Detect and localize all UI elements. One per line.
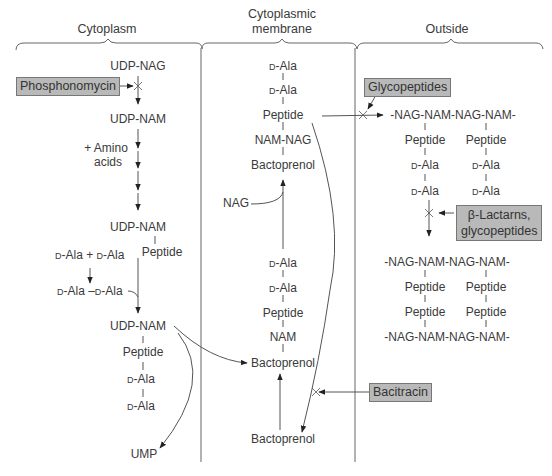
label-udp-nam-2: UDP-NAM — [110, 220, 166, 234]
label-chain-bottom: -NAG-NAM-NAG-NAM- — [384, 330, 509, 344]
label-nag: NAG — [223, 196, 249, 210]
label-udp-nam-3: UDP-NAM — [110, 319, 166, 333]
label-nam: NAM — [270, 330, 297, 344]
label-dala-dala: D-Ala –D-Ala — [57, 284, 123, 299]
label-amino-acids-line2: acids — [94, 155, 122, 169]
label-udp-nam-1: UDP-NAM — [110, 112, 166, 126]
label-dala-b: D-Ala — [127, 399, 155, 414]
label-outside-dala-l1: D-Ala — [411, 158, 439, 173]
label-xl-peptide-l1: Peptide — [405, 280, 446, 294]
region-label-outside: Outside — [425, 22, 468, 37]
label-membrane-dala-2: D-Ala — [269, 83, 297, 98]
label-membrane-peptide-top: Peptide — [263, 108, 304, 122]
label-amino-acids-line1: + Amino — [84, 141, 128, 155]
label-outside-dala-r2: D-Ala — [472, 184, 500, 199]
drug-box-beta-lactams-line1: β-Lactarns, — [461, 207, 537, 223]
label-xl-peptide-r1: Peptide — [466, 280, 507, 294]
label-outside-dala-r1: D-Ala — [472, 158, 500, 173]
label-peptide-1: Peptide — [142, 245, 183, 259]
label-chain-top: -NAG-NAM-NAG-NAM- — [390, 108, 515, 122]
label-outside-peptide-l: Peptide — [405, 133, 446, 147]
label-outside-peptide-r: Peptide — [466, 133, 507, 147]
label-bactoprenol-bottom: Bactoprenol — [251, 432, 315, 446]
label-udp-nag: UDP-NAG — [110, 59, 165, 73]
label-bactoprenol-top: Bactoprenol — [251, 158, 315, 172]
label-xl-peptide-r2: Peptide — [466, 305, 507, 319]
label-peptide-2: Peptide — [123, 345, 164, 359]
label-outside-dala-l2: D-Ala — [411, 184, 439, 199]
drug-box-glycopeptides: Glycopeptides — [364, 78, 451, 97]
drug-box-bacitracin: Bacitracin — [369, 383, 432, 402]
drug-box-phosphonomycin: Phosphonomycin — [16, 77, 120, 96]
label-chain-mid: -NAG-NAM-NAG-NAM- — [384, 255, 509, 269]
label-xl-peptide-l2: Peptide — [405, 305, 446, 319]
region-label-membrane-line2: membrane — [248, 22, 316, 37]
label-ump: UMP — [131, 447, 158, 461]
label-membrane-peptide-mid: Peptide — [263, 306, 304, 320]
peptidoglycan-synthesis-diagram: Cytoplasm Cytoplasmic membrane Outside P… — [0, 0, 552, 476]
label-membrane-dala-4: D-Ala — [269, 281, 297, 296]
region-label-cytoplasm: Cytoplasm — [77, 22, 136, 37]
label-dala-a: D-Ala — [127, 372, 155, 387]
region-label-membrane: Cytoplasmic membrane — [248, 7, 316, 37]
label-membrane-dala-3: D-Ala — [269, 256, 297, 271]
region-label-membrane-line1: Cytoplasmic — [248, 7, 316, 22]
label-nam-nag: NAM-NAG — [255, 133, 312, 147]
drug-box-beta-lactams-line2: glycopeptides — [461, 223, 537, 239]
drug-box-beta-lactams: β-Lactarns, glycopeptides — [456, 205, 542, 241]
label-membrane-dala-1: D-Ala — [269, 59, 297, 74]
label-dala-plus-dala: D-Ala + D-Ala — [55, 248, 124, 263]
label-bactoprenol-mid: Bactoprenol — [251, 356, 315, 370]
